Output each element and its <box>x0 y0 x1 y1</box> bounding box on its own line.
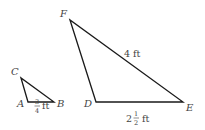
vertex-label-b: B <box>56 98 64 109</box>
unit-label: ft <box>42 100 50 111</box>
fraction-denominator: 4 <box>35 107 39 115</box>
side-fe-length: 4 ft <box>124 48 141 59</box>
vertex-label-e: E <box>185 102 194 113</box>
fraction-denominator: 2 <box>134 119 138 127</box>
vertex-label-d: D <box>83 98 92 109</box>
vertex-label-c: C <box>11 66 19 77</box>
mixed-whole: 2 <box>126 113 132 124</box>
triangle-def <box>70 20 183 102</box>
fraction-numerator: 3 <box>35 98 39 106</box>
vertex-label-f: F <box>59 8 68 19</box>
vertex-label-a: A <box>16 98 24 109</box>
fraction-numerator: 1 <box>134 110 138 118</box>
unit-label: ft <box>142 113 150 124</box>
side-ab-length: 3 4 ft <box>35 98 50 115</box>
side-de-length: 2 1 2 ft <box>126 110 150 127</box>
similar-triangles-diagram: C A B 3 4 ft F D E 4 ft 2 1 2 ft <box>0 0 205 130</box>
